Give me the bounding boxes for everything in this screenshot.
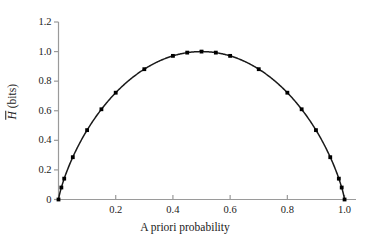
data-point-marker	[328, 155, 332, 159]
data-point-marker	[114, 91, 118, 95]
y-tick-label: 0.2	[8, 165, 52, 176]
data-point-marker	[200, 50, 204, 54]
x-tick-label: 0.4	[153, 205, 193, 216]
x-axis-ticks	[116, 195, 345, 200]
data-curve	[59, 52, 345, 200]
data-point-marker	[185, 51, 189, 55]
data-point-marker	[340, 186, 344, 190]
y-axis-label: H (bits)	[5, 57, 19, 147]
x-tick-label: 0.8	[267, 205, 307, 216]
data-point-marker	[314, 128, 318, 132]
data-point-marker	[57, 198, 61, 202]
data-point-marker	[257, 67, 261, 71]
y-axis-ticks	[54, 22, 59, 200]
data-point-marker	[214, 51, 218, 55]
x-tick-label: 0.2	[96, 205, 136, 216]
data-point-marker	[59, 186, 63, 190]
y-tick-label: 0	[8, 195, 52, 206]
data-point-marker	[343, 198, 347, 202]
data-point-marker	[171, 54, 175, 58]
data-point-marker	[71, 155, 75, 159]
data-point-marker	[300, 107, 304, 111]
x-tick-label: 1.0	[325, 205, 365, 216]
data-point-marker	[85, 128, 89, 132]
data-point-marker	[142, 67, 146, 71]
x-axis-label: A priori probability	[0, 222, 370, 234]
y-tick-label: 1.0	[8, 47, 52, 58]
y-axis-label-symbol: H	[5, 111, 18, 119]
data-point-marker	[100, 107, 104, 111]
chart-figure: 00.20.40.60.81.01.2 0.20.40.60.81.0 A pr…	[0, 0, 370, 242]
data-point-marker	[228, 54, 232, 58]
data-point-marker	[337, 177, 341, 181]
y-tick-label: 1.2	[8, 17, 52, 28]
x-tick-label: 0.6	[210, 205, 250, 216]
data-point-marker	[62, 177, 66, 181]
data-markers	[57, 50, 347, 202]
data-point-marker	[285, 91, 289, 95]
y-axis-label-units: (bits)	[6, 84, 18, 108]
